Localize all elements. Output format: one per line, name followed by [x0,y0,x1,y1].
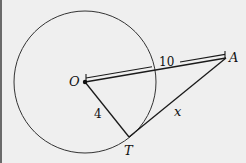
geometry-diagram: O A T 4 10 x [2,0,246,163]
segment-ot [85,82,129,137]
label-ta-length: x [174,104,182,119]
label-t: T [124,143,134,158]
label-ot-length: 4 [94,107,102,121]
center-point [83,80,87,84]
dimension-line-right [180,54,225,62]
label-oa-length: 10 [159,55,174,69]
label-a: A [228,50,238,65]
segment-ta [129,58,226,137]
diagram-frame: O A T 4 10 x [0,0,246,163]
label-o: O [69,74,80,89]
